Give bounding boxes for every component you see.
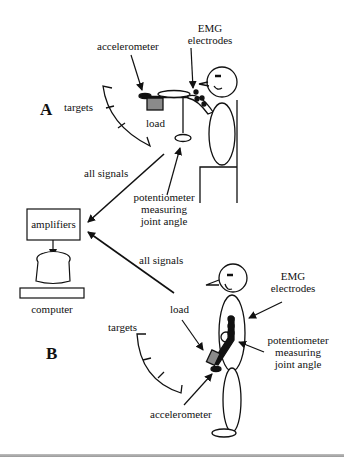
label-load-b: load <box>170 303 189 315</box>
label-targets-a: targets <box>64 101 93 113</box>
arrow-accelerometer-a <box>131 55 142 90</box>
potentiometer-a <box>175 135 191 142</box>
label-potentiometer-a-line3: joint angle <box>129 215 199 227</box>
accelerometer-b <box>211 367 221 372</box>
label-targets-b: targets <box>108 321 137 333</box>
label-computer: computer <box>20 303 84 315</box>
label-amplifiers: amplifiers <box>27 218 80 230</box>
head-a <box>207 67 237 97</box>
load-a <box>147 98 163 110</box>
torso-a <box>209 103 235 165</box>
label-accelerometer-b: accelerometer <box>150 408 212 420</box>
label-emg-b-line2: electrodes <box>268 282 318 294</box>
label-potentiometer-b-line3: joint angle <box>263 358 333 370</box>
bottom-divider <box>0 454 344 457</box>
label-potentiometer-a-line1: potentiometer <box>129 191 199 203</box>
foot-b <box>212 429 236 437</box>
arrow-emg-b <box>249 302 282 318</box>
targets-arc-b <box>137 334 182 393</box>
arrow-accelerometer-b <box>184 374 212 405</box>
head-b <box>219 264 247 292</box>
leg-b <box>223 368 241 432</box>
panel-label-b: B <box>46 344 57 364</box>
label-all-signals-b: all signals <box>139 254 183 266</box>
computer-monitor <box>36 252 70 284</box>
arrow-emg-a <box>191 48 193 88</box>
label-potentiometer-a-line2: measuring <box>129 203 199 215</box>
label-accelerometer-a: accelerometer <box>97 40 159 52</box>
arrow-load-b <box>182 320 203 350</box>
label-emg-b-line1: EMG <box>268 270 318 282</box>
label-emg-a-line2: electrodes <box>185 34 235 46</box>
label-all-signals-a: all signals <box>84 167 128 179</box>
experimental-setup-diagram <box>0 0 344 460</box>
label-potentiometer-b-line2: measuring <box>263 346 333 358</box>
panel-label-a: A <box>40 100 52 120</box>
panel-b-arrows <box>88 232 282 405</box>
label-emg-a-line1: EMG <box>185 22 235 34</box>
computer-base <box>20 288 84 298</box>
label-load-a: load <box>146 117 165 129</box>
label-potentiometer-b-line1: potentiometer <box>263 334 333 346</box>
arrow-potentiometer-a <box>167 148 180 195</box>
